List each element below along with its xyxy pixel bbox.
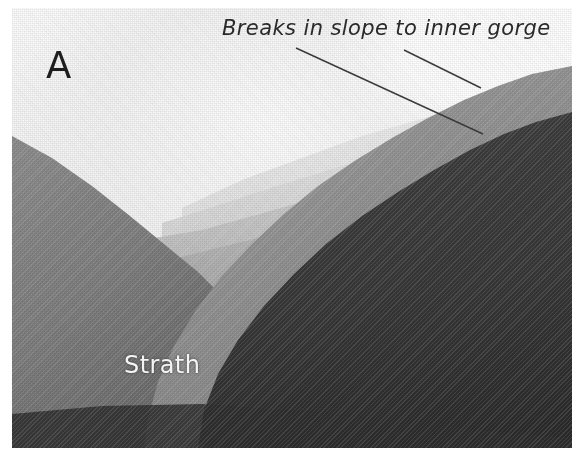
figure-panel-a: A Breaks in slope to inner gorge Strath xyxy=(0,0,585,465)
panel-letter: A xyxy=(46,44,71,87)
break-in-slope-label: Breaks in slope to inner gorge xyxy=(222,16,550,40)
strath-label: Strath xyxy=(124,351,200,379)
photograph xyxy=(12,8,572,448)
foreground-shadow xyxy=(12,8,572,448)
